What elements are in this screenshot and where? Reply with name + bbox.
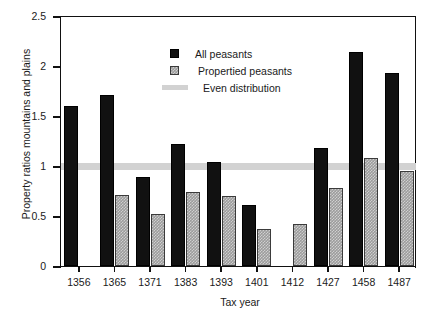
y-tick-label: 2.5 <box>6 10 46 22</box>
bar-all-peasants <box>171 144 185 266</box>
black-square-icon <box>170 49 179 58</box>
bar-propertied-peasants <box>293 224 307 266</box>
y-tick <box>53 166 61 168</box>
y-tick <box>53 66 61 68</box>
bar-propertied-peasants <box>257 229 271 266</box>
y-tick-label: 1.5 <box>6 110 46 122</box>
bar-all-peasants <box>136 177 150 266</box>
chart-figure: Property ratios mountains and plains Tax… <box>0 0 430 318</box>
bar-all-peasants <box>349 52 363 266</box>
y-tick-label: 0.5 <box>6 210 46 222</box>
x-tick <box>327 266 329 272</box>
bar-all-peasants <box>207 162 221 266</box>
legend-item-all-peasants: All peasants <box>170 46 292 61</box>
bar-propertied-peasants <box>329 188 343 266</box>
gray-hatched-square-icon <box>170 66 179 75</box>
legend-item-propertied-peasants: Propertied peasants <box>170 63 292 78</box>
bar-propertied-peasants <box>115 195 129 266</box>
y-tick-label: 1 <box>6 160 46 172</box>
bar-all-peasants <box>100 95 114 266</box>
bar-all-peasants <box>314 148 328 266</box>
y-tick <box>53 16 61 18</box>
bar-propertied-peasants <box>151 214 165 266</box>
y-tick <box>53 116 61 118</box>
legend-label: Propertied peasants <box>198 65 292 77</box>
x-tick <box>149 266 151 272</box>
x-tick <box>398 266 400 272</box>
bar-all-peasants <box>385 73 399 266</box>
x-tick <box>185 266 187 272</box>
y-tick <box>53 216 61 218</box>
gray-band-icon <box>162 85 188 90</box>
bar-propertied-peasants <box>186 192 200 266</box>
bar-all-peasants <box>242 205 256 266</box>
y-tick <box>53 266 61 268</box>
y-tick-label: 2 <box>6 60 46 72</box>
x-tick <box>292 266 294 272</box>
legend-label: All peasants <box>195 48 252 60</box>
x-tick <box>256 266 258 272</box>
x-tick <box>363 266 365 272</box>
legend-item-even-distribution: Even distribution <box>162 80 292 95</box>
legend: All peasants Propertied peasants Even di… <box>170 46 292 97</box>
x-axis-title: Tax year <box>60 296 420 308</box>
x-tick <box>220 266 222 272</box>
x-tick <box>114 266 116 272</box>
bar-propertied-peasants <box>400 171 414 266</box>
x-tick <box>78 266 80 272</box>
x-tick-label: 1487 <box>376 276 422 288</box>
y-axis-title: Property ratios mountains and plains <box>20 4 32 264</box>
legend-label: Even distribution <box>203 82 281 94</box>
bar-propertied-peasants <box>222 196 236 266</box>
bar-propertied-peasants <box>364 158 378 266</box>
bar-all-peasants <box>64 106 78 266</box>
y-tick-label: 0 <box>6 260 46 272</box>
